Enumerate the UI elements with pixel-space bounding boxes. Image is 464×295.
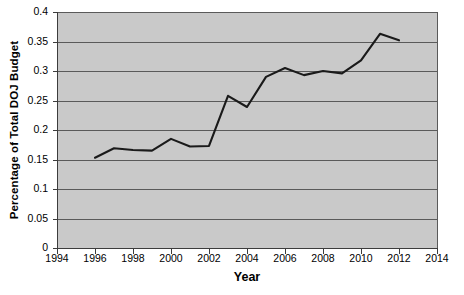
y-tick-label: 0.35 <box>8 36 48 47</box>
gridline-horizontal <box>57 71 437 72</box>
gridline-horizontal <box>57 130 437 131</box>
y-tick-mark <box>53 219 58 220</box>
gridline-horizontal <box>57 42 437 43</box>
gridline-horizontal <box>57 12 437 13</box>
y-tick-label: 0.25 <box>8 95 48 106</box>
y-tick-label: 0.4 <box>8 6 48 17</box>
gridline-horizontal <box>57 189 437 190</box>
y-tick-label: 0.15 <box>8 154 48 165</box>
x-axis-title: Year <box>57 270 437 284</box>
y-tick-mark <box>53 12 58 13</box>
y-tick-mark <box>53 71 58 72</box>
gridline-horizontal <box>57 101 437 102</box>
y-tick-label: 0 <box>8 242 48 253</box>
y-tick-label: 0.3 <box>8 65 48 76</box>
y-tick-mark <box>53 130 58 131</box>
chart-figure: Percentage of Total DOJ Budget 00.050.10… <box>0 0 464 295</box>
y-tick-label: 0.2 <box>8 124 48 135</box>
x-tick-label: 2014 <box>415 253 459 264</box>
y-tick-label: 0.1 <box>8 183 48 194</box>
y-tick-mark <box>53 189 58 190</box>
y-tick-mark <box>53 101 58 102</box>
y-tick-label: 0.05 <box>8 213 48 224</box>
y-tick-mark <box>53 160 58 161</box>
plot-area <box>57 12 438 248</box>
y-tick-mark <box>53 42 58 43</box>
gridline-horizontal <box>57 219 437 220</box>
gridline-horizontal <box>57 160 437 161</box>
